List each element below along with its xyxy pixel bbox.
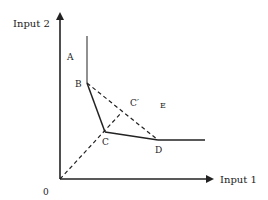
point-label-b: B	[75, 79, 82, 89]
point-label-e: E	[160, 101, 166, 110]
point-label-d: D	[155, 145, 162, 155]
point-label-c-prime: C′	[130, 98, 139, 108]
dashed-ray-origin-c-prime	[60, 112, 122, 179]
isoquant-diagram: Input 2 Input 1 0 A B C C′ D E	[0, 0, 268, 200]
x-axis-label: Input 1	[220, 174, 257, 185]
isoquant-segment-b-c	[87, 83, 105, 132]
origin-label: 0	[43, 187, 49, 197]
y-axis-label: Input 2	[13, 18, 50, 29]
point-label-a: A	[66, 52, 74, 62]
point-label-c: C	[102, 137, 109, 147]
